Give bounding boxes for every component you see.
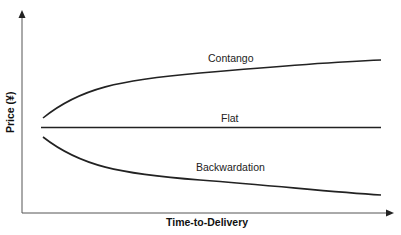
axes [19, 10, 395, 217]
term-structure-chart: Contango Flat Backwardation Time-to-Deli… [0, 0, 401, 235]
x-axis-title: Time-to-Delivery [166, 216, 248, 228]
backwardation-label: Backwardation [196, 161, 265, 173]
y-axis-title: Price (¥) [4, 92, 16, 133]
contango-label: Contango [208, 52, 254, 64]
y-axis-arrow-icon [19, 10, 26, 18]
x-axis-arrow-icon [386, 210, 394, 217]
contango-curve [43, 60, 381, 118]
flat-label: Flat [221, 112, 239, 124]
